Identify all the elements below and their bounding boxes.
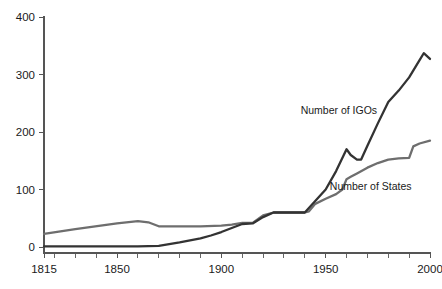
- x-tick-label: 1950: [313, 263, 339, 275]
- y-tick-label: 300: [16, 69, 35, 81]
- x-tick-label: 2000: [417, 263, 442, 275]
- data-series-group: [44, 53, 430, 246]
- line-chart: 0100200300400 18151850190019502000 Numbe…: [0, 0, 442, 289]
- y-tick-label: 400: [16, 11, 35, 23]
- y-axis: 0100200300400: [16, 11, 44, 253]
- y-tick-label: 0: [29, 241, 35, 253]
- series-annotations: Number of IGOsNumber of States: [301, 104, 412, 192]
- series-line-number-of-igos: [44, 53, 430, 246]
- chart-container: 0100200300400 18151850190019502000 Numbe…: [0, 0, 442, 289]
- y-tick-label: 100: [16, 184, 35, 196]
- x-tick-label: 1850: [104, 263, 130, 275]
- series-label-number-of-states: Number of States: [330, 180, 412, 192]
- x-axis: 18151850190019502000: [31, 253, 442, 275]
- x-tick-label: 1900: [209, 263, 235, 275]
- y-tick-label: 200: [16, 126, 35, 138]
- x-tick-label: 1815: [31, 263, 57, 275]
- series-label-number-of-igos: Number of IGOs: [301, 104, 377, 116]
